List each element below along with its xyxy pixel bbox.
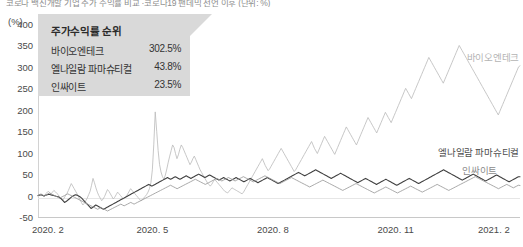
x-axis-ticks: 2020. 22020. 52020. 82020. 112021. 2: [0, 224, 523, 240]
callout-tail: [190, 14, 212, 36]
series-label-1: 엘나일람 파마슈티컬: [438, 145, 519, 159]
callout-row-value: 23.5%: [154, 79, 181, 90]
x-tick-1: 2020. 5: [137, 224, 169, 235]
callout-row: 엘나일람 파마슈티컬43.8%: [51, 61, 181, 78]
x-tick-4: 2021. 2: [478, 224, 510, 235]
callout-row-name: 바이오엔테크: [51, 43, 103, 58]
callout-row: 인싸이트23.5%: [51, 79, 181, 96]
callout-row-value: 43.8%: [154, 61, 181, 72]
callout-row-name: 인싸이트: [51, 79, 86, 94]
chart-container: 코로나 백신개발 기업 주가 수익률 비교 ·코로나19 팬데믹 선언 이후 (…: [0, 0, 523, 247]
callout-row-name: 엘나일람 파마슈티컬: [51, 61, 132, 76]
series-label-2: 인싸이트: [462, 163, 497, 177]
callout-row: 바이오엔테크302.5%: [51, 43, 181, 60]
callout-title: 주가수익률 순위: [51, 23, 122, 38]
x-tick-2: 2020. 8: [257, 224, 289, 235]
series-label-0: 바이오엔테크: [467, 50, 519, 64]
x-tick-3: 2020. 11: [378, 224, 414, 235]
x-tick-0: 2020. 2: [32, 224, 64, 235]
ranking-callout: 주가수익률 순위 바이오엔테크302.5%엘나일람 파마슈티컬43.8%인싸이트…: [38, 14, 190, 96]
callout-row-value: 302.5%: [149, 43, 181, 54]
